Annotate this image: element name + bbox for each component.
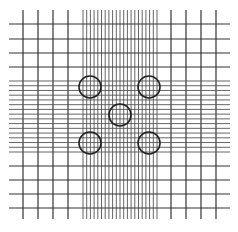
grid-diagram: [0, 0, 238, 232]
horizontal-grid-lines: [9, 24, 230, 208]
